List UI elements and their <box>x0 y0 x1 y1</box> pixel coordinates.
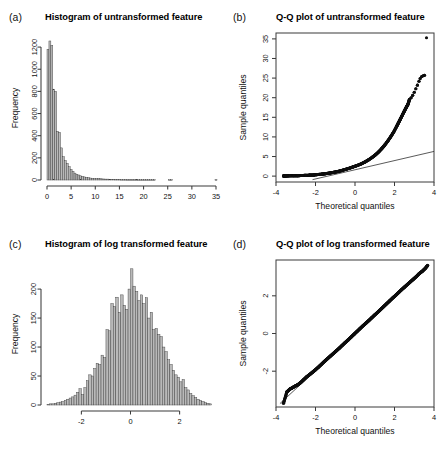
svg-text:0: 0 <box>29 403 38 407</box>
svg-text:5: 5 <box>261 154 270 158</box>
svg-text:100: 100 <box>29 341 38 353</box>
panel-d-plot: -202-4-2024Theoretical quantilesSample q… <box>224 227 448 454</box>
qq-points <box>282 36 428 177</box>
svg-text:600: 600 <box>30 107 39 119</box>
panel-a: (a) Histogram of untransformed feature 0… <box>0 0 224 227</box>
svg-text:0: 0 <box>30 178 39 182</box>
svg-text:0: 0 <box>128 417 132 426</box>
svg-text:1200: 1200 <box>30 39 39 55</box>
svg-text:4: 4 <box>432 188 436 197</box>
svg-text:400: 400 <box>30 130 39 142</box>
svg-text:2: 2 <box>392 413 396 422</box>
panel-a-plot: 02004006008001000120005101520253035Frequ… <box>0 0 224 227</box>
svg-text:1000: 1000 <box>30 61 39 77</box>
svg-text:2: 2 <box>178 417 182 426</box>
svg-text:-2: -2 <box>261 368 270 375</box>
x-axis: -4-2024 <box>273 407 436 422</box>
svg-text:0: 0 <box>45 192 49 201</box>
figure-grid: (a) Histogram of untransformed feature 0… <box>0 0 448 454</box>
svg-text:20: 20 <box>261 94 270 102</box>
svg-text:150: 150 <box>29 312 38 324</box>
y-axis-label: Sample quantiles <box>238 75 248 141</box>
x-axis-label: Theoretical quantiles <box>315 426 394 436</box>
svg-text:0: 0 <box>261 174 270 178</box>
x-axis: 05101520253035 <box>45 186 220 201</box>
svg-text:-4: -4 <box>273 413 280 422</box>
panel-c-plot: 050100150200-202Frequency <box>0 227 224 454</box>
panel-d: (d) Q-Q plot of log transformed feature … <box>224 227 448 454</box>
svg-text:0: 0 <box>353 413 357 422</box>
histogram-bars <box>47 41 217 180</box>
svg-text:-2: -2 <box>312 188 319 197</box>
panel-b-svg: 05101520253035-4-2024Theoretical quantil… <box>224 0 448 227</box>
y-axis-label: Sample quantiles <box>238 301 248 367</box>
svg-text:10: 10 <box>261 133 270 141</box>
svg-text:5: 5 <box>69 192 73 201</box>
svg-text:2: 2 <box>392 188 396 197</box>
svg-text:4: 4 <box>432 413 436 422</box>
x-axis-label: Theoretical quantiles <box>315 201 394 211</box>
svg-text:2: 2 <box>261 294 270 298</box>
svg-text:200: 200 <box>30 152 39 164</box>
svg-text:15: 15 <box>115 192 123 201</box>
svg-text:35: 35 <box>261 35 270 43</box>
y-axis-label: Frequency <box>10 313 20 354</box>
svg-text:30: 30 <box>188 192 196 201</box>
svg-text:-4: -4 <box>273 188 280 197</box>
x-axis: -4-2024 <box>273 182 436 197</box>
y-axis-label: Frequency <box>10 87 20 128</box>
panel-c: (c) Histogram of log transformed feature… <box>0 227 224 454</box>
panel-d-svg: -202-4-2024Theoretical quantilesSample q… <box>224 227 448 454</box>
svg-text:25: 25 <box>164 192 172 201</box>
svg-text:0: 0 <box>353 188 357 197</box>
y-axis: 05101520253035 <box>261 35 276 178</box>
panel-b: (b) Q-Q plot of untransformed feature 05… <box>224 0 448 227</box>
panel-a-svg: 02004006008001000120005101520253035Frequ… <box>0 0 224 227</box>
x-axis: -202 <box>78 411 182 426</box>
y-axis: 020040060080010001200 <box>30 39 41 182</box>
svg-text:15: 15 <box>261 113 270 121</box>
svg-text:-2: -2 <box>312 413 319 422</box>
panel-c-svg: 050100150200-202Frequency <box>0 227 224 454</box>
svg-text:-2: -2 <box>78 417 85 426</box>
svg-text:10: 10 <box>91 192 99 201</box>
histogram-bars <box>47 269 212 405</box>
svg-text:20: 20 <box>139 192 147 201</box>
svg-text:800: 800 <box>30 85 39 97</box>
svg-text:25: 25 <box>261 74 270 82</box>
svg-text:30: 30 <box>261 54 270 62</box>
y-axis: -202 <box>261 294 276 375</box>
svg-text:0: 0 <box>261 331 270 335</box>
panel-b-plot: 05101520253035-4-2024Theoretical quantil… <box>224 0 448 227</box>
y-axis: 050100150200 <box>29 283 41 407</box>
svg-text:200: 200 <box>29 283 38 295</box>
svg-text:35: 35 <box>212 192 220 201</box>
qq-points <box>282 264 429 405</box>
svg-text:50: 50 <box>29 372 38 380</box>
